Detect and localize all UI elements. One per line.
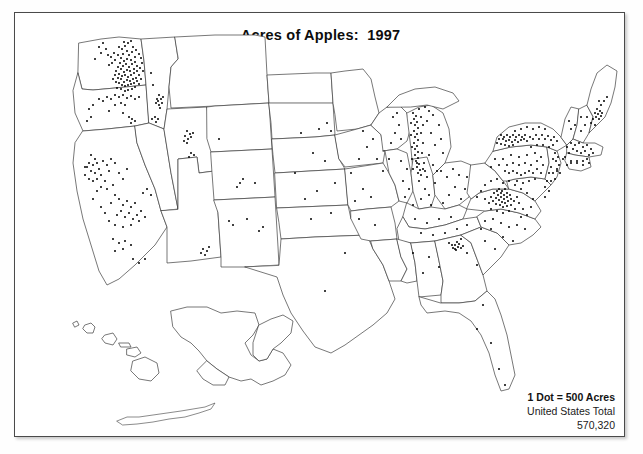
state-sd <box>269 103 335 139</box>
inset-hawaii-big-island <box>131 357 159 381</box>
screenshot-root: Acres of Apples: 1997 <box>0 0 643 454</box>
dot-density-map <box>15 13 626 438</box>
state-nm <box>214 197 279 267</box>
inset-hawaii-maui <box>127 347 141 357</box>
inset-hawaii-oahu <box>102 333 117 345</box>
state-mt <box>169 35 269 108</box>
inset-hawaii-kauai <box>83 323 95 333</box>
state-nd <box>267 73 333 103</box>
state-ks <box>275 169 348 208</box>
legend-dot-rule: 1 Dot = 500 Acres <box>425 390 615 404</box>
legend-total-value: 570,320 <box>425 418 615 432</box>
map-plate: Acres of Apples: 1997 <box>14 12 625 437</box>
state-ne <box>272 135 345 173</box>
inset-hawaii-niihau <box>73 321 79 327</box>
legend-total-label: United States Total <box>425 404 615 418</box>
state-fl <box>419 291 515 391</box>
inset-alaska-aleutians <box>117 403 215 425</box>
state-mi-upper <box>387 87 459 109</box>
state-co <box>211 149 275 200</box>
state-wy <box>207 103 272 152</box>
state-boundaries <box>73 35 617 425</box>
inset-hawaii-molokai <box>119 343 131 347</box>
map-legend: 1 Dot = 500 Acres United States Total 57… <box>425 390 615 432</box>
state-mn <box>331 69 379 131</box>
